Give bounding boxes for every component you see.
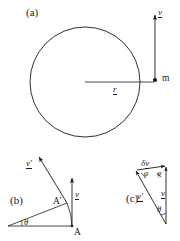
velocity-prime-label-c-text: v' [137, 192, 143, 202]
radius-label-a: r [113, 85, 117, 95]
angle-arc-theta-b [22, 221, 23, 227]
point-a-label-b: A [74, 228, 81, 238]
velocity-label-a-text: v [158, 8, 162, 18]
figure-canvas: (a) v r m (b) v' v A' A θ (c) δv v' v φ … [0, 0, 180, 241]
angle-theta-label-c: θ [157, 205, 161, 214]
velocity-label-c: v [161, 189, 165, 199]
delta-v-label-c: δv [141, 153, 149, 169]
panel-a-tag: (a) [26, 7, 38, 18]
velocity-label-a: v [158, 8, 162, 18]
angle-phi-left-label-c: φ [144, 170, 148, 178]
velocity-label-b-text: v [75, 190, 79, 200]
panel-b-graphics [8, 157, 73, 227]
point-a-prime-label-b: A' [53, 197, 62, 207]
angle-arc-theta-c [161, 213, 166, 215]
radius-label-a-text: r [113, 85, 117, 95]
point-a-marker [71, 225, 74, 228]
figure-vector-graphics [0, 0, 180, 241]
mass-label-a: m [162, 74, 169, 84]
angle-theta-label-b: θ [24, 218, 28, 227]
orbit-arc-b [67, 203, 72, 226]
panel-a-graphics [30, 15, 157, 137]
panel-b-tag: (b) [10, 195, 23, 206]
velocity-prime-label-b: v' [26, 159, 32, 169]
velocity-label-c-text: v [161, 189, 165, 199]
velocity-prime-label-b-text: v' [26, 159, 32, 169]
velocity-prime-label-c: v' [137, 192, 143, 202]
velocity-label-b: v [75, 190, 79, 200]
delta-v-label-c-text: v [145, 159, 149, 169]
angle-phi-right-label-c: φ [157, 170, 161, 178]
